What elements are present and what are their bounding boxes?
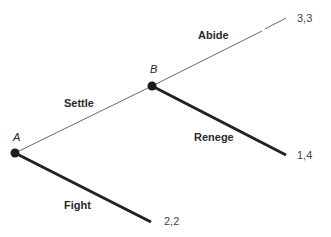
fight-label: Fight xyxy=(64,199,91,211)
game-tree-lines xyxy=(0,0,331,237)
renege-label: Renege xyxy=(194,131,234,143)
branch-renege xyxy=(152,86,286,155)
branch-abide-end xyxy=(265,18,286,29)
payoff-fight: 2,2 xyxy=(164,215,179,227)
payoff-renege: 1,4 xyxy=(297,149,312,161)
node-a-label: A xyxy=(13,131,20,143)
settle-label: Settle xyxy=(64,97,94,109)
abide-label: Abide xyxy=(198,29,229,41)
node-b xyxy=(148,82,157,91)
branch-fight xyxy=(15,153,151,222)
payoff-abide: 3,3 xyxy=(297,12,312,24)
node-a xyxy=(11,149,20,158)
node-b-label: B xyxy=(150,63,157,75)
